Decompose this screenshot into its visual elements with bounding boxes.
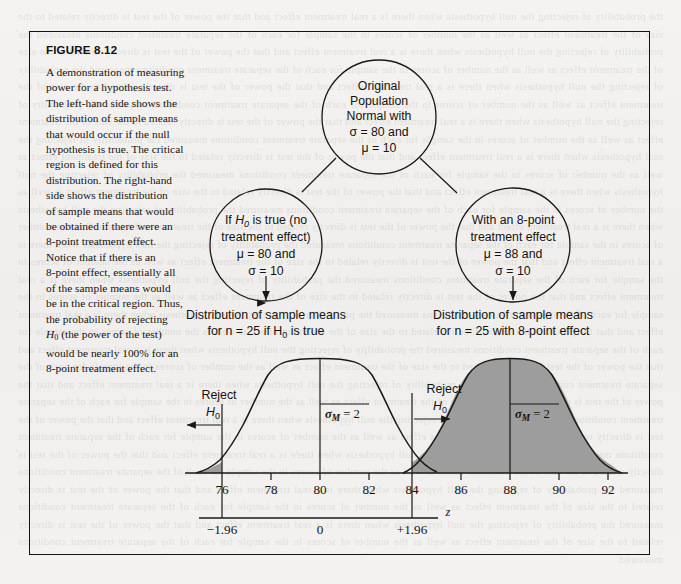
figure-caption-text: A demonstration of measuringpower for a …: [46, 65, 210, 376]
caption-line-17: H0 (the power of the test): [46, 327, 210, 346]
caption-line-13: 8-point effect, essentially all: [46, 265, 210, 280]
caption-line-15: be in the critical region. Thus,: [46, 296, 210, 311]
caption-line-1: power for a hypothesis test.: [46, 80, 210, 95]
caption-line-8: side shows the distribution: [46, 188, 210, 203]
caption-line-19: 8-point treatment effect.: [46, 361, 210, 376]
figure-border-box: FIGURE 8.12 A demonstration of measuring…: [29, 31, 650, 555]
caption-line-9: of sample means that would: [46, 204, 210, 219]
caption-line-7: distribution. The right-hand: [46, 173, 210, 188]
caption-line-14: of the sample means would: [46, 281, 210, 296]
caption-line-5: hypothesis is true. The critical: [46, 142, 210, 157]
caption-line-3: distribution of sample means: [46, 111, 210, 126]
caption-line-2: The left-hand side shows the: [46, 96, 210, 111]
caption-line-10: be obtained if there were an: [46, 219, 210, 234]
figure-label: FIGURE 8.12: [46, 44, 210, 56]
caption-line-6: region is defined for this: [46, 157, 210, 172]
figure-caption: FIGURE 8.12 A demonstration of measuring…: [46, 44, 210, 376]
caption-line-11: 8-point treatment effect.: [46, 234, 210, 249]
caption-line-4: that would occur if the null: [46, 127, 210, 142]
caption-line-18: would be nearly 100% for an: [46, 346, 210, 361]
caption-line-12: Notice that if there is an: [46, 250, 210, 265]
caption-line-16: the probability of rejecting: [46, 312, 210, 327]
caption-line-0: A demonstration of measuring: [46, 65, 210, 80]
